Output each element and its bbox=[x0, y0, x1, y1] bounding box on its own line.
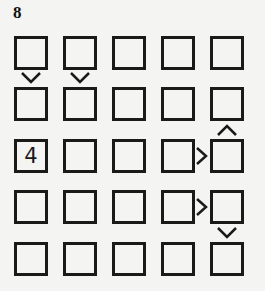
cell-r2-c0[interactable]: 4 bbox=[14, 139, 48, 173]
less-than-up-icon bbox=[217, 124, 237, 136]
cell-r3-c3[interactable] bbox=[161, 190, 195, 224]
greater-than-right-icon bbox=[196, 147, 208, 165]
cell-r1-c2[interactable] bbox=[112, 87, 146, 121]
greater-than-down-icon bbox=[21, 72, 41, 84]
cell-r1-c3[interactable] bbox=[161, 87, 195, 121]
cell-r3-c2[interactable] bbox=[112, 190, 146, 224]
cell-r4-c0[interactable] bbox=[14, 242, 48, 276]
cell-r0-c3[interactable] bbox=[161, 36, 195, 70]
cell-r0-c1[interactable] bbox=[63, 36, 97, 70]
cell-r4-c4[interactable] bbox=[210, 242, 244, 276]
cell-r0-c0[interactable] bbox=[14, 36, 48, 70]
cell-r3-c4[interactable] bbox=[210, 190, 244, 224]
cell-r2-c4[interactable] bbox=[210, 139, 244, 173]
cell-r4-c2[interactable] bbox=[112, 242, 146, 276]
greater-than-right-icon bbox=[196, 198, 208, 216]
cell-r1-c1[interactable] bbox=[63, 87, 97, 121]
cell-r4-c1[interactable] bbox=[63, 242, 97, 276]
cell-r3-c0[interactable] bbox=[14, 190, 48, 224]
cell-r0-c4[interactable] bbox=[210, 36, 244, 70]
greater-than-down-icon bbox=[70, 72, 90, 84]
cell-r2-c2[interactable] bbox=[112, 139, 146, 173]
greater-than-down-icon bbox=[217, 227, 237, 239]
puzzle-number: 8 bbox=[13, 3, 22, 23]
cell-r2-c3[interactable] bbox=[161, 139, 195, 173]
cell-r3-c1[interactable] bbox=[63, 190, 97, 224]
cell-r0-c2[interactable] bbox=[112, 36, 146, 70]
cell-r1-c0[interactable] bbox=[14, 87, 48, 121]
cell-r1-c4[interactable] bbox=[210, 87, 244, 121]
cell-r2-c1[interactable] bbox=[63, 139, 97, 173]
cell-r4-c3[interactable] bbox=[161, 242, 195, 276]
